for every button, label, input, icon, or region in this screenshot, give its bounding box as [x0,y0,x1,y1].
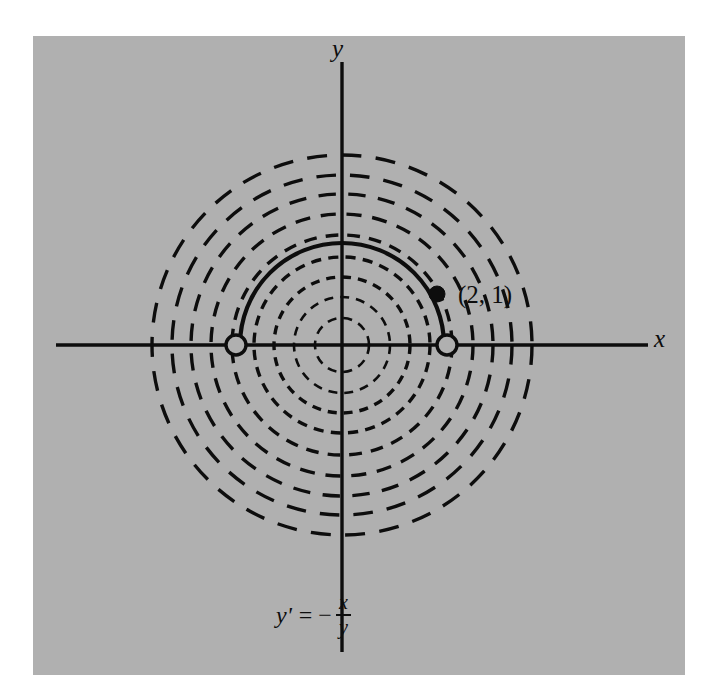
y-axis-label: y [332,36,343,61]
fraction-numerator: x [336,592,351,613]
point-coordinate-label: (2, 1) [458,282,512,307]
open-circle-marker-left [226,335,246,355]
equation-minus-sign: − [318,603,332,627]
coordinate-axes [56,62,648,652]
fraction-denominator: y [336,617,351,638]
differential-equation-label: y' = − x y [276,592,351,638]
direction-field-figure [0,0,712,698]
equation-lhs: y' [276,603,292,627]
x-axis-label: x [654,326,665,351]
equation-equals-sign: = [299,603,313,627]
equation-fraction: x y [336,592,351,638]
open-circle-marker-right [437,335,457,355]
filled-point-marker [429,286,445,302]
figure-page: y x (2, 1) y' = − x y [0,0,712,698]
